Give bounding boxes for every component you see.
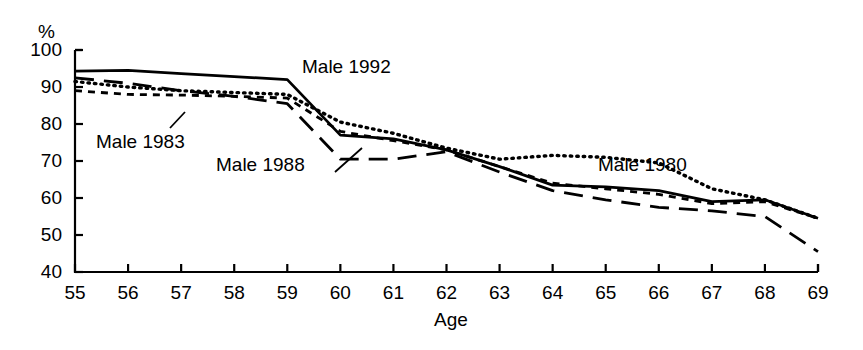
y-tick-label-70: 70 [16, 151, 62, 170]
x-tick-label-68: 68 [745, 283, 785, 302]
x-tick-label-65: 65 [586, 283, 626, 302]
x-tick-label-63: 63 [480, 283, 520, 302]
x-tick-label-59: 59 [267, 283, 307, 302]
y-tick-label-40: 40 [16, 262, 62, 281]
series-paths [75, 70, 818, 251]
series-label-male-1988: Male 1988 [216, 155, 305, 174]
chart-root: % 405060708090100 5556575859606162636465… [0, 0, 863, 350]
x-tick-label-66: 66 [639, 283, 679, 302]
x-tick-label-58: 58 [214, 283, 254, 302]
x-tick-label-64: 64 [533, 283, 573, 302]
x-tick-label-61: 61 [373, 283, 413, 302]
series-label-male-1992: Male 1992 [302, 57, 391, 76]
y-tick-label-50: 50 [16, 225, 62, 244]
x-tick-label-55: 55 [55, 283, 95, 302]
x-tick-label-60: 60 [320, 283, 360, 302]
x-tick-label-62: 62 [427, 283, 467, 302]
x-tick-label-69: 69 [798, 283, 838, 302]
x-tick-label-56: 56 [108, 283, 148, 302]
axis-lines [75, 50, 818, 272]
series-line-male-1988 [75, 78, 818, 252]
x-axis-title: Age [406, 310, 496, 329]
series-label-male-1980: Male 1980 [598, 155, 687, 174]
x-tick-label-57: 57 [161, 283, 201, 302]
x-axis-ticks [75, 264, 818, 272]
series-label-male-1983: Male 1983 [96, 132, 185, 151]
y-tick-label-100: 100 [16, 40, 62, 59]
x-tick-label-67: 67 [692, 283, 732, 302]
y-tick-label-60: 60 [16, 188, 62, 207]
y-tick-label-80: 80 [16, 114, 62, 133]
y-tick-label-90: 90 [16, 77, 62, 96]
